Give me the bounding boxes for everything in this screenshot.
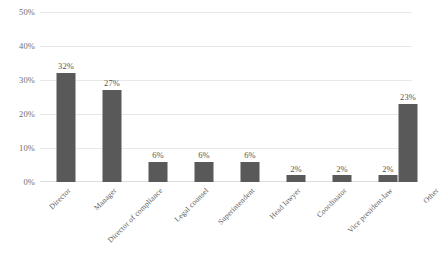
bar-value-label: 32% bbox=[58, 61, 74, 71]
y-tick-label: 0% bbox=[23, 177, 35, 187]
y-axis: 50% 40% 30% 20% 10% 0% bbox=[0, 0, 40, 192]
bar-value-label: 6% bbox=[152, 150, 164, 160]
y-tick-label: 10% bbox=[19, 143, 35, 153]
bar-group: 2% bbox=[322, 12, 362, 182]
bar-group: 6% bbox=[184, 12, 224, 182]
x-axis: Director Manager Director of compliance … bbox=[40, 184, 412, 259]
x-axis-label-legal-counsel: Legal counsel bbox=[173, 186, 211, 224]
x-label-slot: Other bbox=[414, 184, 443, 259]
bar-value-label: 6% bbox=[198, 150, 210, 160]
bar-group: 6% bbox=[138, 12, 178, 182]
bar-group: 32% bbox=[46, 12, 86, 182]
bar-value-label: 2% bbox=[290, 164, 302, 174]
bar-superintendent[interactable] bbox=[241, 162, 260, 182]
y-tick-label: 30% bbox=[19, 75, 35, 85]
bar-value-label: 27% bbox=[104, 78, 120, 88]
x-label-slot: Director bbox=[46, 184, 86, 259]
bar-group: 6% bbox=[230, 12, 270, 182]
x-axis-label-head-lawyer: Head lawyer bbox=[268, 186, 303, 221]
bar-value-label: 2% bbox=[336, 164, 348, 174]
x-axis-label-coordinator: Coordinator bbox=[315, 186, 348, 219]
bar-group: 27% bbox=[92, 12, 132, 182]
x-label-slot: Vice president-law bbox=[368, 184, 408, 259]
bar-group: 23% bbox=[388, 12, 428, 182]
y-tick-label: 50% bbox=[19, 7, 35, 17]
bar-value-label: 23% bbox=[400, 92, 416, 102]
bar-group: 2% bbox=[276, 12, 316, 182]
bar-value-label: 6% bbox=[244, 150, 256, 160]
y-tick-label: 20% bbox=[19, 109, 35, 119]
x-label-slot: Head lawyer bbox=[276, 184, 316, 259]
x-axis-label-manager: Manager bbox=[92, 186, 118, 212]
bar-head-lawyer[interactable] bbox=[287, 175, 306, 182]
bar-director-of-compliance[interactable] bbox=[149, 162, 168, 182]
bar-director[interactable] bbox=[57, 73, 76, 182]
x-label-slot: Director of compliance bbox=[138, 184, 178, 259]
x-axis-label-director: Director bbox=[47, 186, 72, 211]
plot-area: 32% 27% 6% 6% 6% 2% 2% 2% bbox=[40, 12, 412, 182]
x-label-slot: Superintendent bbox=[230, 184, 270, 259]
bar-manager[interactable] bbox=[103, 90, 122, 182]
x-axis-label-other: Other bbox=[421, 186, 440, 205]
bar-legal-counsel[interactable] bbox=[195, 162, 214, 182]
bar-coordinator[interactable] bbox=[333, 175, 352, 182]
bar-other[interactable] bbox=[399, 104, 418, 182]
y-tick-label: 40% bbox=[19, 41, 35, 51]
